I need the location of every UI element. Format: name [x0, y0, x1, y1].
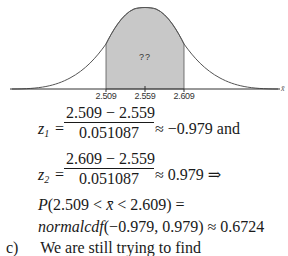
z2-lhs: z2: [38, 167, 49, 188]
shaded-region: [106, 8, 184, 90]
part-c: c) We are still trying to find: [6, 240, 201, 256]
z1-lhs: z1: [38, 121, 49, 142]
z2-numerator: 2.609 − 2.559: [64, 151, 154, 167]
z1-denominator: 0.051087: [64, 125, 154, 141]
part-c-label: c): [6, 239, 18, 256]
part-c-text: We are still trying to find: [40, 239, 201, 256]
z2-result: ≈ 0.979 ⇒: [155, 167, 221, 183]
shaded-region-label: ??: [139, 52, 151, 62]
tick-label-upper: 2.609: [173, 91, 194, 101]
equals-sign: =: [55, 121, 64, 137]
z1-fraction: 2.509 − 2.559 0.051087: [64, 105, 154, 141]
z1-numerator: 2.509 − 2.559: [64, 105, 154, 121]
z1-result: ≈ −0.979 and: [155, 121, 240, 137]
axis-variable-label: x̄: [281, 84, 285, 93]
normalcdf-statement: normalcdf(−0.979, 0.979) ≈ 0.6724: [38, 219, 264, 235]
normal-curve-figure: ?? 2.509 2.559 2.609 x̄: [0, 0, 288, 104]
z2-denominator: 0.051087: [64, 171, 154, 187]
normalcdf-args: (−0.979, 0.979) ≈ 0.6724: [104, 218, 264, 235]
z2-fraction: 2.609 − 2.559 0.051087: [64, 151, 154, 187]
normalcdf-function: normalcdf: [38, 218, 104, 235]
fraction-bar: [64, 168, 154, 169]
fraction-bar: [64, 122, 154, 123]
tick-label-lower: 2.509: [95, 91, 116, 101]
probability-statement: P(2.509 < x̄ < 2.609) =: [38, 197, 185, 213]
tick-label-mean: 2.559: [134, 91, 155, 101]
equals-sign: =: [55, 167, 64, 183]
